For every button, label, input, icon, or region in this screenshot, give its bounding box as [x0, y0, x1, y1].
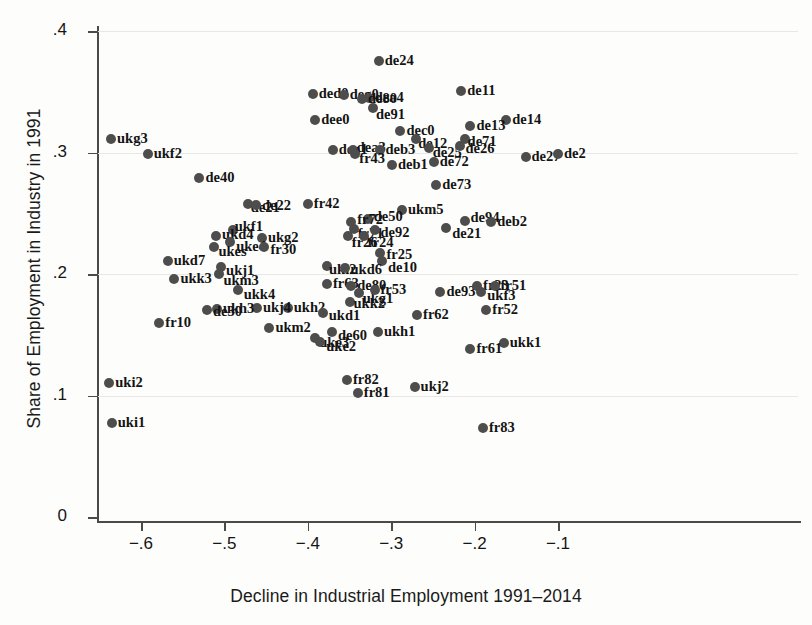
data-point-label: fr43: [359, 150, 385, 167]
data-point-label: fr83: [489, 419, 515, 436]
data-point: [395, 126, 405, 136]
data-point-label: de2: [564, 145, 586, 162]
data-point: [476, 287, 486, 297]
data-point-label: de10: [388, 259, 417, 276]
data-point: [370, 285, 380, 295]
data-point: [553, 149, 563, 159]
data-point-label: fr81: [364, 384, 390, 401]
data-point-label: de73: [442, 176, 471, 193]
data-point-label: de72: [440, 153, 469, 170]
data-point: [373, 327, 383, 337]
data-point-label: de30: [213, 303, 242, 320]
data-point: [308, 89, 318, 99]
data-point: [233, 285, 243, 295]
data-point: [441, 223, 451, 233]
data-point: [521, 152, 531, 162]
data-point: [374, 56, 384, 66]
data-point: [328, 145, 338, 155]
data-point: [357, 94, 367, 104]
data-point-label: ukk1: [510, 334, 541, 351]
data-point: [163, 256, 173, 266]
data-point: [310, 115, 320, 125]
data-point: [143, 149, 153, 159]
data-point-label: fr61: [476, 340, 502, 357]
data-point: [340, 263, 350, 273]
data-point-label: de40: [205, 169, 234, 186]
data-point: [107, 418, 117, 428]
data-point-label: fr10: [165, 314, 191, 331]
data-point: [342, 375, 352, 385]
data-point-label: de93: [446, 283, 475, 300]
data-point: [169, 274, 179, 284]
data-point: [435, 287, 445, 297]
data-point: [264, 323, 274, 333]
scatter-chart: Share of Employment in Industry in 1991 …: [0, 0, 812, 625]
data-point-label: de91: [376, 106, 405, 123]
data-point-label: fr30: [270, 241, 296, 258]
data-point: [154, 318, 164, 328]
data-point-label: ukj4: [263, 299, 291, 316]
data-point-label: de22: [262, 197, 291, 214]
data-point: [303, 199, 313, 209]
data-point: [456, 86, 466, 96]
data-point-label: uki1: [118, 414, 145, 431]
data-point: [322, 279, 332, 289]
data-point-label: deb2: [497, 213, 527, 230]
data-point-label: ukm5: [408, 201, 443, 218]
data-point: [318, 308, 328, 318]
data-point: [412, 310, 422, 320]
data-point-label: de14: [512, 111, 541, 128]
data-point-label: de26: [465, 140, 494, 157]
data-point-label: uki2: [115, 374, 142, 391]
data-point: [353, 388, 363, 398]
data-point-label: ukd7: [174, 252, 205, 269]
data-point: [465, 344, 475, 354]
data-point-label: ukg3: [117, 130, 148, 147]
data-point-label: fr42: [314, 195, 340, 212]
data-point-label: ukes: [218, 243, 246, 260]
data-point: [251, 200, 261, 210]
data-point: [431, 180, 441, 190]
data-point: [410, 382, 420, 392]
data-point-label: ukf2: [154, 145, 182, 162]
data-point: [106, 134, 116, 144]
data-point-label: de21: [452, 225, 481, 242]
data-point-label: ukj2: [421, 378, 449, 395]
data-point: [481, 305, 491, 315]
data-point: [465, 121, 475, 131]
data-point: [259, 242, 269, 252]
data-point-label: de11: [467, 82, 495, 99]
data-point-label: uke2: [326, 338, 356, 355]
data-point-label: dee0: [321, 111, 349, 128]
data-point: [455, 141, 465, 151]
data-point: [478, 423, 488, 433]
plot-area: de24ded0deg0dea4de80de11de91dee0de14de13…: [0, 0, 812, 625]
data-point: [429, 157, 439, 167]
data-point-label: fr52: [492, 301, 518, 318]
data-point-label: ukd1: [329, 307, 360, 324]
data-point-label: ukh1: [384, 323, 415, 340]
data-point-label: de24: [385, 52, 414, 69]
data-point: [104, 378, 114, 388]
data-point-label: de13: [476, 117, 505, 134]
data-point: [211, 231, 221, 241]
data-point-label: deb1: [398, 156, 428, 173]
data-point: [202, 305, 212, 315]
data-point-label: ukm2: [275, 319, 310, 336]
data-point: [387, 160, 397, 170]
data-point-label: ukk3: [180, 270, 211, 287]
data-point-label: fr62: [423, 306, 449, 323]
data-point: [194, 173, 204, 183]
